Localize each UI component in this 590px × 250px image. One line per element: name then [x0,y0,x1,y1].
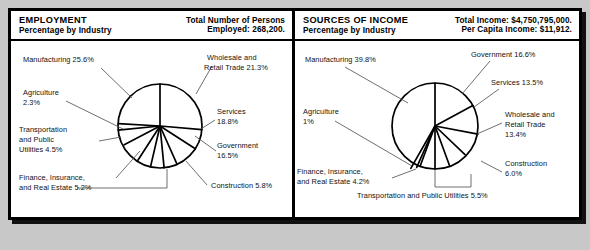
panel-sources-of-income: SOURCES OF INCOME Percentage by Industry… [295,11,579,217]
employment-slice-edge-9 [118,124,160,126]
employment-label-transportation-line3: Utilities 4.5% [19,145,62,155]
income-header: SOURCES OF INCOME Percentage by Industry… [295,11,579,41]
employment-label-manufacturing: Manufacturing 25.6% [23,55,94,65]
employment-label-finance-line2: and Real Estate 5.2% [19,183,92,193]
income-leader-construction [481,161,502,172]
employment-label-services-line1: Services [217,107,246,117]
employment-label-construction: Construction 5.8% [211,181,272,191]
income-label-finance-line2: and Real Estate 4.2% [297,177,370,187]
income-title-block: SOURCES OF INCOME Percentage by Industry [303,15,408,34]
income-leader-services [474,89,499,107]
employment-total-line-1: Total Number of Persons [186,16,285,25]
income-slice-edge-1 [435,106,473,127]
employment-leader-manufacturing [101,68,132,98]
employment-plot: Manufacturing 25.6% Agriculture 2.3% Tra… [11,41,292,220]
employment-header: EMPLOYMENT Percentage by Industry Total … [11,11,292,41]
income-label-wholesale-line2: Retail Trade [505,120,545,130]
employment-label-services-line2: 18.8% [217,117,238,127]
income-label-transportation: Transportation and Public Utilities 5.5% [357,191,488,201]
employment-leader-services [201,120,215,129]
employment-label-government-line2: 16.5% [217,151,238,161]
employment-label-wholesale-line1: Wholesale and [207,53,257,63]
income-stats-block: Total Income: $4,750,795,000. Per Capita… [455,16,572,34]
income-leader-government [462,61,490,94]
employment-label-transportation-line2: and Public [19,135,54,145]
employment-label-government-line1: Government [217,141,258,151]
income-label-agriculture-line2: 1% [303,117,314,127]
employment-label-agriculture-line2: 2.3% [23,98,40,108]
employment-label-finance-line1: Finance, Insurance, [19,173,85,183]
infographic-frame: EMPLOYMENT Percentage by Industry Total … [8,8,582,220]
employment-title-block: EMPLOYMENT Percentage by Industry [19,15,112,34]
income-label-wholesale-line3: 13.4% [505,130,526,140]
income-label-services: Services 13.5% [491,78,543,88]
income-leader-agriculture [335,121,412,166]
income-percapita-line: Per Capita Income: $11,912. [455,25,572,34]
income-subtitle: Percentage by Industry [303,26,408,35]
income-label-wholesale-line1: Wholesale and [505,110,555,120]
income-label-manufacturing: Manufacturing 39.8% [305,55,376,65]
income-total-line: Total Income: $4,750,795,000. [455,16,572,25]
employment-leader-finance [116,151,140,178]
income-label-construction-line2: 6.0% [505,169,522,179]
employment-label-agriculture-line1: Agriculture [23,88,59,98]
employment-total-line-2: Employed: 268,200. [186,25,285,34]
income-slice-edge-8 [411,126,435,168]
income-leader-wholesale [477,123,502,134]
income-leader-manufacturing [345,67,408,103]
income-title: SOURCES OF INCOME [303,15,408,25]
employment-stats-block: Total Number of Persons Employed: 268,20… [186,16,285,34]
employment-subtitle: Percentage by Industry [19,26,112,35]
employment-title: EMPLOYMENT [19,15,112,25]
income-label-finance-line1: Finance, Insurance, [297,167,363,177]
employment-leader-agriculture [66,101,123,129]
income-leader-finance [392,169,416,178]
panel-employment: EMPLOYMENT Percentage by Industry Total … [11,11,295,217]
income-label-agriculture-line1: Agriculture [303,107,339,117]
income-plot: Manufacturing 39.8% Agriculture 1% Finan… [295,41,579,220]
employment-label-wholesale-line2: Retail Trade 21.3% [204,63,268,73]
employment-label-transportation-line1: Transportation [19,125,67,135]
employment-leader-transportation [99,137,121,141]
panel-container: EMPLOYMENT Percentage by Industry Total … [11,11,579,217]
income-label-government: Government 16.6% [471,50,535,60]
employment-leader-construction-3 [186,161,207,185]
income-label-construction-line1: Construction [505,159,547,169]
